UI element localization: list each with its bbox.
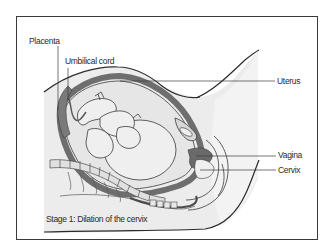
label-umbilical-cord: Umbilical cord: [65, 56, 114, 66]
label-uterus: Uterus: [277, 76, 300, 86]
label-cervix: Cervix: [278, 165, 300, 175]
label-vagina: Vagina: [278, 150, 302, 160]
diagram-caption: Stage 1: Dilation of the cervix: [46, 214, 147, 224]
label-placenta: Placenta: [29, 36, 60, 46]
